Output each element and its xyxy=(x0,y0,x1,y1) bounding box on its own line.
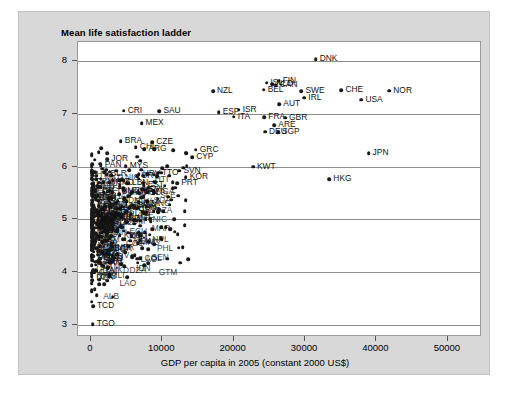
data-point xyxy=(172,149,176,153)
x-tick-mark xyxy=(447,336,448,341)
data-point xyxy=(171,181,175,185)
data-point-prt xyxy=(175,181,179,185)
y-tick-mark xyxy=(72,166,77,167)
point-label-mex: MEX xyxy=(146,118,164,126)
x-tick-mark xyxy=(233,336,234,341)
data-point-mex xyxy=(140,121,144,125)
data-point-cri xyxy=(122,109,126,113)
data-point xyxy=(95,293,99,297)
data-point-pol xyxy=(138,191,142,195)
data-point xyxy=(91,221,95,225)
data-point-swe xyxy=(300,89,304,93)
data-point-irn xyxy=(105,226,109,230)
chart-title: Mean life satisfaction ladder xyxy=(61,27,191,38)
data-point xyxy=(90,163,94,167)
point-label-nzl: NZL xyxy=(217,86,233,94)
x-tick-mark xyxy=(304,336,305,341)
data-point xyxy=(90,255,94,259)
point-label-jpn: JPN xyxy=(373,148,389,156)
data-point xyxy=(186,257,190,261)
data-point-geo xyxy=(98,257,102,261)
data-point xyxy=(130,255,134,259)
point-label-lbn: LBN xyxy=(132,178,148,186)
data-point xyxy=(90,152,94,156)
point-label-usa: USA xyxy=(365,95,382,103)
point-label-cri: CRI xyxy=(128,106,142,114)
point-label-kaz: KAZ xyxy=(113,177,129,185)
point-label-arm: ARM xyxy=(104,258,123,266)
data-point-aut xyxy=(278,102,282,106)
x-tick-label: 0 xyxy=(60,342,120,353)
point-label-tun: TUN xyxy=(116,187,133,195)
data-point xyxy=(98,282,102,286)
data-point-blr xyxy=(105,173,109,177)
point-label-che: CHE xyxy=(345,85,363,93)
data-point-cyp xyxy=(190,155,194,159)
data-point xyxy=(90,263,94,267)
point-label-tto: TTO xyxy=(162,168,179,176)
point-label-irl: IRL xyxy=(308,93,321,101)
point-label-kwt: KWT xyxy=(257,162,276,170)
data-point-jpn xyxy=(367,151,371,155)
data-point-kwt xyxy=(251,165,255,169)
data-point-esp xyxy=(217,110,221,114)
data-point-deu xyxy=(263,130,267,134)
x-tick-label: 30000 xyxy=(274,342,334,353)
data-point xyxy=(91,191,95,195)
data-point-sau xyxy=(158,110,162,114)
y-tick-label: 3 xyxy=(37,318,67,329)
data-point-rou xyxy=(110,215,114,219)
point-label-bgr: BGR xyxy=(114,244,132,252)
data-point xyxy=(90,201,94,205)
data-point-fra xyxy=(263,115,267,119)
data-point xyxy=(105,152,109,156)
data-point xyxy=(178,261,182,265)
x-tick-mark xyxy=(375,336,376,341)
data-point-bgr xyxy=(108,247,112,251)
data-point xyxy=(183,223,187,227)
data-point-bel xyxy=(262,88,266,92)
point-label-hkg: HKG xyxy=(333,174,351,182)
data-point xyxy=(97,150,101,154)
data-point xyxy=(92,181,96,185)
figure-panel: Mean life satisfaction ladder ZMBJAMCIVD… xyxy=(18,11,490,375)
data-point-rus xyxy=(111,210,115,214)
point-label-ita: ITA xyxy=(238,112,250,120)
x-tick-label: 10000 xyxy=(131,342,191,353)
data-point xyxy=(183,209,187,213)
gridline-y-3 xyxy=(78,325,480,326)
y-tick-label: 5 xyxy=(37,212,67,223)
y-tick-mark xyxy=(72,60,77,61)
point-label-aut: AUT xyxy=(283,99,300,107)
point-label-dnk: DNK xyxy=(320,54,338,62)
data-point xyxy=(147,247,151,251)
y-tick-mark xyxy=(72,113,77,114)
data-point xyxy=(176,194,180,198)
x-tick-label: 50000 xyxy=(417,342,477,353)
data-point-tcd xyxy=(91,305,95,309)
point-label-bel: BEL xyxy=(268,85,284,93)
point-label-pol: POL xyxy=(143,188,160,196)
data-point xyxy=(184,198,188,202)
data-point-che xyxy=(340,88,344,92)
data-point-irl xyxy=(303,96,307,100)
data-point xyxy=(184,151,188,155)
data-point xyxy=(93,158,97,162)
y-tick-mark xyxy=(72,271,77,272)
data-point xyxy=(90,278,94,282)
x-tick-label: 20000 xyxy=(203,342,263,353)
data-point xyxy=(181,245,185,249)
data-point-tun xyxy=(110,190,114,194)
data-point xyxy=(91,246,95,250)
data-point-arm xyxy=(98,261,102,265)
point-label-sau: SAU xyxy=(163,106,180,114)
data-point xyxy=(90,282,94,286)
plot-area: ZMBJAMCIVDZAPHLPRYSLEMNGZMBPRYUKRCIVCOLI… xyxy=(77,41,481,336)
data-point xyxy=(102,282,106,286)
y-tick-mark xyxy=(72,324,77,325)
point-label-ltu: LTU xyxy=(135,209,150,217)
data-point xyxy=(92,269,96,273)
data-point-kaz xyxy=(108,181,112,185)
data-point xyxy=(90,169,94,173)
x-axis-label: GDP per capita in 2005 (constant 2000 US… xyxy=(19,357,491,368)
